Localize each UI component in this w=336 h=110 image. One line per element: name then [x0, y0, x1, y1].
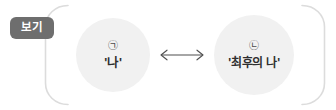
figure-screenshot: 보기 ㉠ '나' ㉡ '최후의 나' — [0, 0, 336, 110]
circled-giyeok-icon: ㉠ — [108, 41, 118, 51]
node-second: ㉡ '최후의 나' — [214, 15, 294, 95]
diagram-content: ㉠ '나' ㉡ '최후의 나' — [44, 4, 326, 106]
node-first: ㉠ '나' — [76, 18, 150, 92]
node-second-label: '최후의 나' — [228, 57, 280, 69]
double-headed-arrow-icon — [156, 46, 208, 64]
node-first-label: '나' — [104, 57, 121, 70]
boggi-badge-label: 보기 — [21, 22, 44, 34]
circled-nieun-icon: ㉡ — [249, 41, 259, 51]
